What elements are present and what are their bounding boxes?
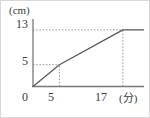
x-axis-tick-label-5: 5 [48,91,54,103]
y-axis-unit-label: (cm) [9,5,30,16]
x-axis-unit-label: (分) [119,93,137,104]
y-axis-tick-label-5: 5 [22,55,28,67]
y-axis-tick-label-13: 13 [16,18,28,30]
series-water-level-line [33,30,144,87]
x-axis-tick-label-0: 0 [22,91,28,103]
x-axis-tick-label-17: 17 [95,91,107,103]
line-chart-figure: (cm) (分) 13 5 0 5 17 [0,0,150,118]
